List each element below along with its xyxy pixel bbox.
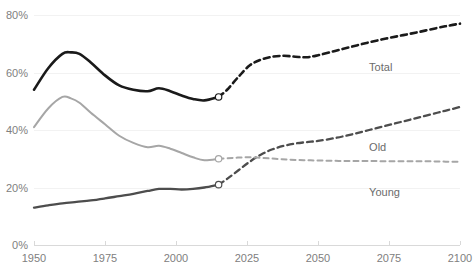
split-markers-group [215,94,221,188]
x-tick-label: 2050 [306,252,330,264]
x-tick-label: 2100 [448,252,472,264]
old-label: Old [369,141,386,153]
x-tick-label: 2000 [164,252,188,264]
y-tick-label: 40% [6,124,28,136]
x-tick-label: 2075 [377,252,401,264]
line-chart: 0%20%40%60%80% 1950197520002025205020752… [0,0,473,271]
split-marker-old [215,181,221,187]
split-marker-young [215,156,221,162]
x-axis-labels: 1950197520002025205020752100 [22,252,472,264]
tick-marks-group [35,241,461,245]
gridlines-group [34,16,460,189]
series-line-total-forecast [219,24,460,97]
series-line-old-forecast [219,107,460,185]
series-labels: TotalOldYoung [369,61,400,198]
y-tick-label: 0% [12,239,28,251]
y-tick-label: 60% [6,67,28,79]
series-line-total-historical [34,52,219,100]
x-tick-label: 2025 [235,252,259,264]
y-tick-label: 20% [6,182,28,194]
x-tick-label: 1975 [93,252,117,264]
young-label: Young [369,186,400,198]
y-tick-label: 80% [6,9,28,21]
chart-container: 0%20%40%60%80% 1950197520002025205020752… [0,0,473,271]
split-marker-total [215,94,221,100]
y-axis-labels: 0%20%40%60%80% [6,9,28,251]
x-tick-label: 1950 [22,252,46,264]
series-group [34,24,460,208]
total-label: Total [369,61,392,73]
series-line-young-historical [34,96,219,160]
